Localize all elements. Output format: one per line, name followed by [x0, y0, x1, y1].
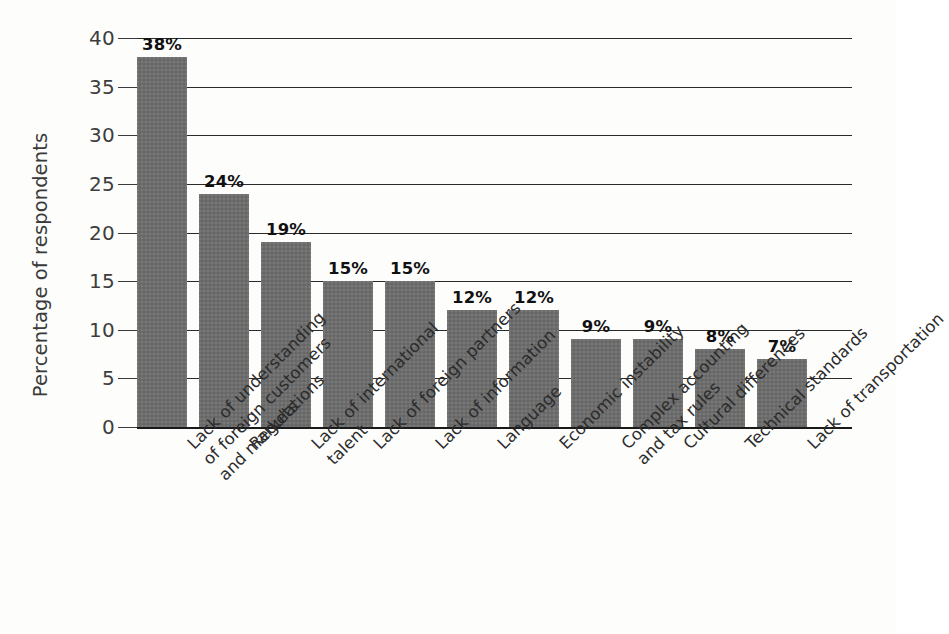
y-tick-label: 35	[69, 75, 115, 99]
y-tick-label: 15	[69, 269, 115, 293]
bar-value-label: 15%	[378, 259, 442, 278]
y-tick-label: 30	[69, 123, 115, 147]
gridline	[137, 38, 852, 39]
y-tick-label: 5	[69, 366, 115, 390]
y-tick-mark	[118, 378, 137, 379]
y-tick-mark	[118, 135, 137, 136]
y-axis-title: Percentage of respondents	[29, 115, 52, 415]
bar-value-label: 9%	[564, 317, 628, 336]
y-tick-label: 25	[69, 172, 115, 196]
y-tick-label: 40	[69, 26, 115, 50]
bar	[137, 57, 187, 427]
bar-value-label: 12%	[440, 288, 504, 307]
bar-value-label: 15%	[316, 259, 380, 278]
y-tick-mark	[118, 330, 137, 331]
gridline	[137, 87, 852, 88]
gridline	[137, 135, 852, 136]
y-tick-mark	[118, 184, 137, 185]
y-tick-label: 0	[69, 415, 115, 439]
y-tick-mark	[118, 87, 137, 88]
bar-value-label: 19%	[254, 220, 318, 239]
y-tick-label: 20	[69, 221, 115, 245]
bar-value-label: 38%	[130, 35, 194, 54]
bar-value-label: 24%	[192, 172, 256, 191]
y-tick-mark	[118, 233, 137, 234]
y-tick-label: 10	[69, 318, 115, 342]
y-tick-mark	[118, 281, 137, 282]
y-tick-mark	[118, 427, 137, 428]
